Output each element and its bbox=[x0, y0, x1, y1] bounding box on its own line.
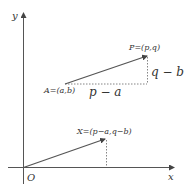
point-p-label: P=(p,q) bbox=[128, 43, 160, 52]
q-minus-b-label: q − b bbox=[151, 65, 184, 79]
vector-o-to-x bbox=[24, 139, 106, 168]
vector-a-to-p bbox=[65, 56, 147, 84]
origin-label: O bbox=[27, 172, 35, 183]
vector-diagram: y x O P=(p,q) A=(a,b) p − a q − b X=(p−a… bbox=[0, 0, 187, 191]
x-axis-label: x bbox=[168, 171, 174, 182]
y-axis-label: y bbox=[11, 10, 18, 21]
p-minus-a-label: p − a bbox=[89, 85, 122, 99]
point-x-label: X=(p−a,q−b) bbox=[76, 127, 132, 136]
point-a-label: A=(a,b) bbox=[43, 86, 75, 95]
